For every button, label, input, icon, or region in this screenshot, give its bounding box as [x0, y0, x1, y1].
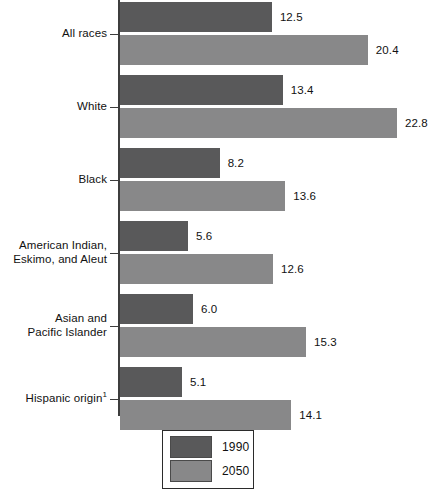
- group-label-4: Asian andPacific Islander: [27, 312, 107, 339]
- group-label-1: White: [77, 100, 107, 114]
- group-label-line: Hispanic origin1: [26, 392, 108, 406]
- bar-4-1990: [120, 294, 193, 324]
- bar-5-2050: [120, 400, 291, 430]
- axis-tick: [110, 399, 119, 400]
- bar-3-1990: [120, 221, 188, 251]
- group-label-0: All races: [62, 27, 107, 41]
- bar-1-1990: [120, 75, 283, 105]
- group-label-line: Asian and: [27, 312, 107, 326]
- bar-chart: 12.520.4All races13.422.8White8.213.6Bla…: [0, 0, 440, 504]
- group-label-3: American Indian,Eskimo, and Aleut: [13, 239, 107, 266]
- group-label-2: Black: [78, 173, 107, 187]
- bar-2-1990: [120, 148, 220, 178]
- bar-value-label: 13.4: [291, 75, 314, 105]
- axis-tick: [110, 34, 119, 35]
- bar-0-1990: [120, 2, 272, 32]
- group-label-line: All races: [62, 27, 107, 41]
- bar-value-label: 13.6: [293, 181, 316, 211]
- legend-label-1990: 1990: [222, 436, 250, 458]
- bar-0-2050: [120, 35, 368, 65]
- axis-tick: [110, 326, 119, 327]
- group-label-line: Black: [78, 173, 107, 187]
- bar-value-label: 12.6: [281, 254, 304, 284]
- group-label-line: Eskimo, and Aleut: [13, 253, 107, 267]
- bar-value-label: 20.4: [376, 35, 399, 65]
- bar-value-label: 12.5: [280, 2, 303, 32]
- axis-tick: [110, 107, 119, 108]
- bar-value-label: 6.0: [201, 294, 217, 324]
- axis-tick: [110, 180, 119, 181]
- bar-2-2050: [120, 181, 285, 211]
- bar-value-label: 22.8: [405, 108, 428, 138]
- bar-value-label: 8.2: [228, 148, 244, 178]
- bar-value-label: 15.3: [314, 327, 337, 357]
- legend-label-2050: 2050: [222, 460, 250, 482]
- bar-4-2050: [120, 327, 306, 357]
- bar-1-2050: [120, 108, 397, 138]
- bar-5-1990: [120, 367, 182, 397]
- legend-swatch-1990: [170, 436, 212, 458]
- plot-area: 12.520.4All races13.422.8White8.213.6Bla…: [0, 0, 440, 420]
- footnote-marker: 1: [102, 390, 107, 399]
- bar-value-label: 5.6: [196, 221, 212, 251]
- group-label-5: Hispanic origin1: [26, 392, 108, 406]
- bar-3-2050: [120, 254, 273, 284]
- chart-legend: 1990 2050: [162, 430, 254, 489]
- group-label-line: Pacific Islander: [27, 326, 107, 340]
- bar-value-label: 14.1: [299, 400, 322, 430]
- group-label-line: American Indian,: [13, 239, 107, 253]
- bar-value-label: 5.1: [190, 367, 206, 397]
- legend-swatch-2050: [170, 460, 212, 482]
- axis-tick: [110, 253, 119, 254]
- group-label-line: White: [77, 100, 107, 114]
